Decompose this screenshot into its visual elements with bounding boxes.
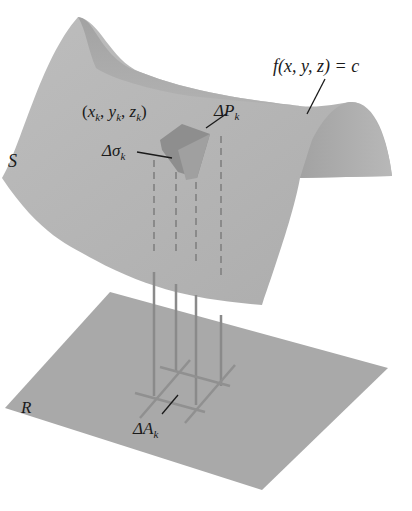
label-region-r: R: [20, 398, 32, 417]
label-equation: f(x, y, z) = c: [273, 56, 359, 77]
label-surface-s: S: [8, 151, 17, 171]
surface-integral-diagram: S f(x, y, z) = c (xk, yk, zk) ΔPk Δσk R …: [0, 0, 412, 511]
